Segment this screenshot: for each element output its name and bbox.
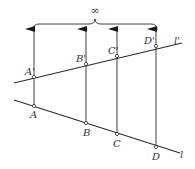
line-l	[14, 100, 180, 153]
label-c: C	[113, 138, 121, 149]
point-d	[154, 145, 157, 148]
point-c	[115, 132, 118, 135]
point-a	[32, 104, 35, 107]
projection-diagram: ∞ A' B' C' D' l' A B C D l	[0, 0, 195, 169]
label-b-prime: B'	[75, 53, 86, 64]
label-line-l-prime: l'	[174, 35, 180, 46]
point-d-prime	[154, 44, 157, 47]
label-a: A	[29, 109, 37, 120]
label-b: B	[82, 127, 90, 138]
label-a-prime: A'	[24, 66, 35, 77]
line-l-prime	[14, 43, 182, 83]
label-d: D	[151, 151, 160, 162]
infinity-symbol: ∞	[90, 4, 99, 17]
label-c-prime: C'	[108, 45, 118, 56]
label-line-l: l	[180, 149, 183, 160]
label-d-prime: D'	[143, 35, 155, 46]
point-b	[84, 121, 87, 124]
brace	[33, 19, 157, 30]
